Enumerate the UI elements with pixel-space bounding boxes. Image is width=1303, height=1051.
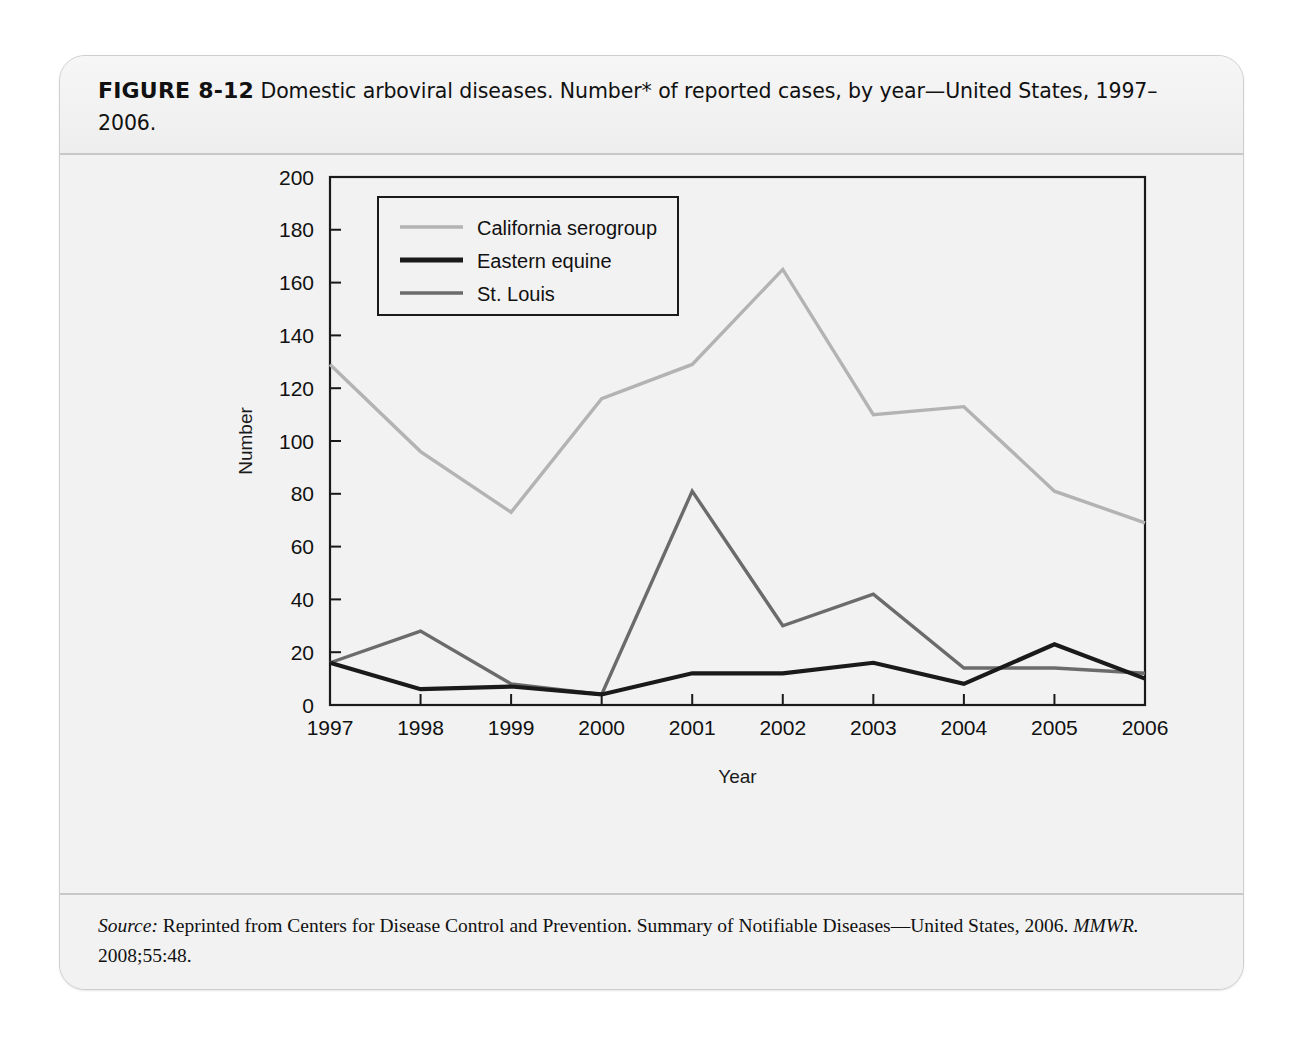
source-body: Reprinted from Centers for Disease Contr… xyxy=(163,915,1068,936)
chart-legend: California serogroupEastern equineSt. Lo… xyxy=(378,197,678,315)
y-axis-tick-label: 20 xyxy=(291,641,314,664)
series-line xyxy=(330,491,1145,694)
x-axis-tick-label: 2005 xyxy=(1031,716,1078,739)
y-axis-tick-label: 140 xyxy=(279,324,314,347)
x-axis-tick-label: 2004 xyxy=(941,716,988,739)
legend-label: St. Louis xyxy=(477,283,555,305)
source-journal: MMWR. xyxy=(1073,915,1139,936)
legend-label: California serogroup xyxy=(477,217,657,239)
chart-area: 0204060801001201401601802001997199819992… xyxy=(60,155,1243,895)
figure-caption-bar: FIGURE 8-12 Domestic arboviral diseases.… xyxy=(60,56,1243,155)
x-axis-tick-label: 2001 xyxy=(669,716,716,739)
chart-series xyxy=(330,269,1145,694)
source-prefix: Source: xyxy=(98,915,158,936)
y-axis-tick-label: 60 xyxy=(291,535,314,558)
figure-caption-text: Domestic arboviral diseases. Number* of … xyxy=(98,79,1157,135)
x-axis-title: Year xyxy=(718,766,757,787)
y-axis-tick-label: 160 xyxy=(279,271,314,294)
figure-caption: FIGURE 8-12 Domestic arboviral diseases.… xyxy=(98,75,1203,139)
source-citation: Source: Reprinted from Centers for Disea… xyxy=(98,911,1213,971)
legend-label: Eastern equine xyxy=(477,250,612,272)
figure-label: FIGURE 8-12 xyxy=(98,78,254,103)
figure-card: FIGURE 8-12 Domestic arboviral diseases.… xyxy=(59,55,1244,990)
x-axis-tick-label: 1998 xyxy=(397,716,444,739)
y-axis-tick-label: 120 xyxy=(279,377,314,400)
y-axis-tick-label: 40 xyxy=(291,588,314,611)
x-axis-tick-label: 1997 xyxy=(307,716,354,739)
y-axis-tick-label: 200 xyxy=(279,166,314,189)
y-axis-tick-label: 0 xyxy=(302,694,314,717)
x-axis-tick-label: 2006 xyxy=(1122,716,1169,739)
x-axis-tick-label: 1999 xyxy=(488,716,535,739)
line-chart: 0204060801001201401601802001997199819992… xyxy=(60,155,1244,895)
source-bar: Source: Reprinted from Centers for Disea… xyxy=(60,893,1243,989)
x-axis-tick-label: 2002 xyxy=(759,716,806,739)
y-axis-tick-label: 80 xyxy=(291,482,314,505)
y-axis-tick-label: 180 xyxy=(279,218,314,241)
y-axis-title: Number xyxy=(235,407,256,475)
x-axis-tick-label: 2000 xyxy=(578,716,625,739)
source-citation-detail: 2008;55:48. xyxy=(98,945,192,966)
x-axis-tick-label: 2003 xyxy=(850,716,897,739)
y-axis-tick-label: 100 xyxy=(279,430,314,453)
